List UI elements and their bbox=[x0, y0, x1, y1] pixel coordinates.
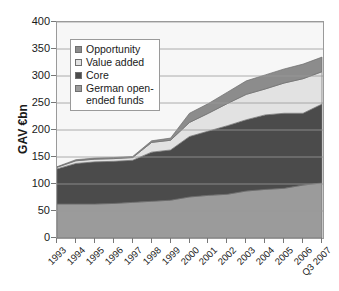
y-axis-tick-label: 350 bbox=[18, 43, 50, 54]
legend-label: Value added bbox=[86, 56, 144, 68]
x-axis-tick-label: 2006 bbox=[265, 245, 314, 291]
x-axis-tick-mark bbox=[283, 238, 284, 243]
x-axis-tick-label: Q3 2007 bbox=[284, 245, 333, 291]
x-axis-tick-mark bbox=[264, 238, 265, 243]
y-axis-tick-label: 300 bbox=[18, 70, 50, 81]
x-axis-tick-mark bbox=[75, 238, 76, 243]
legend-swatch-icon bbox=[75, 85, 82, 92]
x-axis-tick-mark bbox=[245, 238, 246, 243]
x-axis-tick-mark bbox=[113, 238, 114, 243]
x-axis-tick-label: 1998 bbox=[113, 245, 162, 291]
x-axis-tick-marks bbox=[56, 238, 323, 243]
y-axis-tick-label: 150 bbox=[18, 151, 50, 162]
chart-container: GAV €bn 050100150200250300350400 1993199… bbox=[0, 0, 339, 291]
x-axis-tick-label: 1996 bbox=[75, 245, 124, 291]
y-axis-tick-label: 250 bbox=[18, 97, 50, 108]
x-axis-tick-label: 2004 bbox=[227, 245, 276, 291]
y-axis-tick-label: 50 bbox=[18, 205, 50, 216]
x-axis-tick-mark bbox=[170, 238, 171, 243]
y-axis-tick-label: 200 bbox=[18, 124, 50, 135]
chart-legend: OpportunityValue addedCoreGerman open- e… bbox=[70, 39, 160, 111]
x-axis-tick-mark bbox=[302, 238, 303, 243]
legend-swatch-icon bbox=[75, 59, 82, 66]
x-axis-tick-label: 2002 bbox=[189, 245, 238, 291]
y-axis-tick-label: 0 bbox=[18, 232, 50, 243]
x-axis-tick-label: 2001 bbox=[170, 245, 219, 291]
x-axis-tick-mark bbox=[94, 238, 95, 243]
x-axis-tick-label: 2000 bbox=[151, 245, 200, 291]
x-axis-tick-label: 2005 bbox=[246, 245, 295, 291]
x-axis-tick-label: 1995 bbox=[56, 245, 105, 291]
x-axis-tick-label: 2003 bbox=[208, 245, 257, 291]
legend-item: Core bbox=[75, 69, 154, 82]
x-axis-tick-mark bbox=[151, 238, 152, 243]
x-axis-tick-mark bbox=[321, 238, 322, 243]
legend-item: German open- ended funds bbox=[75, 82, 154, 106]
x-axis-tick-label: 1999 bbox=[132, 245, 181, 291]
x-axis-tick-mark bbox=[189, 238, 190, 243]
y-axis-tick-labels: 050100150200250300350400 bbox=[18, 0, 50, 291]
legend-swatch-icon bbox=[75, 72, 82, 79]
legend-item: Opportunity bbox=[75, 43, 154, 56]
x-axis-tick-mark bbox=[132, 238, 133, 243]
legend-label: Opportunity bbox=[86, 43, 140, 55]
legend-label: German open- ended funds bbox=[86, 82, 154, 106]
legend-label: Core bbox=[86, 69, 109, 81]
y-axis-tick-label: 400 bbox=[18, 16, 50, 27]
y-axis-tick-label: 100 bbox=[18, 178, 50, 189]
legend-swatch-icon bbox=[75, 46, 82, 53]
x-axis-tick-mark bbox=[207, 238, 208, 243]
legend-item: Value added bbox=[75, 56, 154, 69]
x-axis-tick-label: 1997 bbox=[94, 245, 143, 291]
x-axis-tick-mark bbox=[56, 238, 57, 243]
x-axis-tick-mark bbox=[226, 238, 227, 243]
